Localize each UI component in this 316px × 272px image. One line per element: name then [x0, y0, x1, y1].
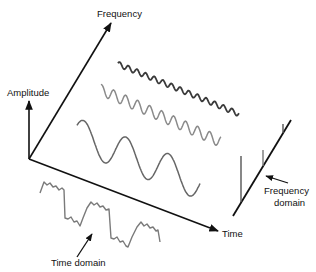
component-waves — [77, 62, 239, 196]
time-domain-label: Time domain — [51, 257, 106, 268]
frequency-domain-pointer — [266, 176, 288, 183]
medium-frequency-wave — [101, 85, 221, 146]
time-domain-composite-wave — [40, 182, 160, 247]
frequency-axis-label: Frequency — [97, 8, 142, 19]
amplitude-axis-label: Amplitude — [7, 87, 49, 98]
time-axis — [29, 159, 218, 231]
time-axis-label: Time — [222, 228, 243, 239]
high-frequency-wave — [118, 62, 239, 116]
frequency-domain-label-line2: domain — [274, 197, 305, 208]
diagram-svg: Frequency Amplitude Time Time domain Fre… — [0, 0, 316, 272]
time-frequency-diagram: Frequency Amplitude Time Time domain Fre… — [0, 0, 316, 272]
time-domain-pointer — [77, 234, 92, 257]
frequency-domain-label-line1: Frequency — [264, 185, 309, 196]
axes — [29, 23, 218, 231]
